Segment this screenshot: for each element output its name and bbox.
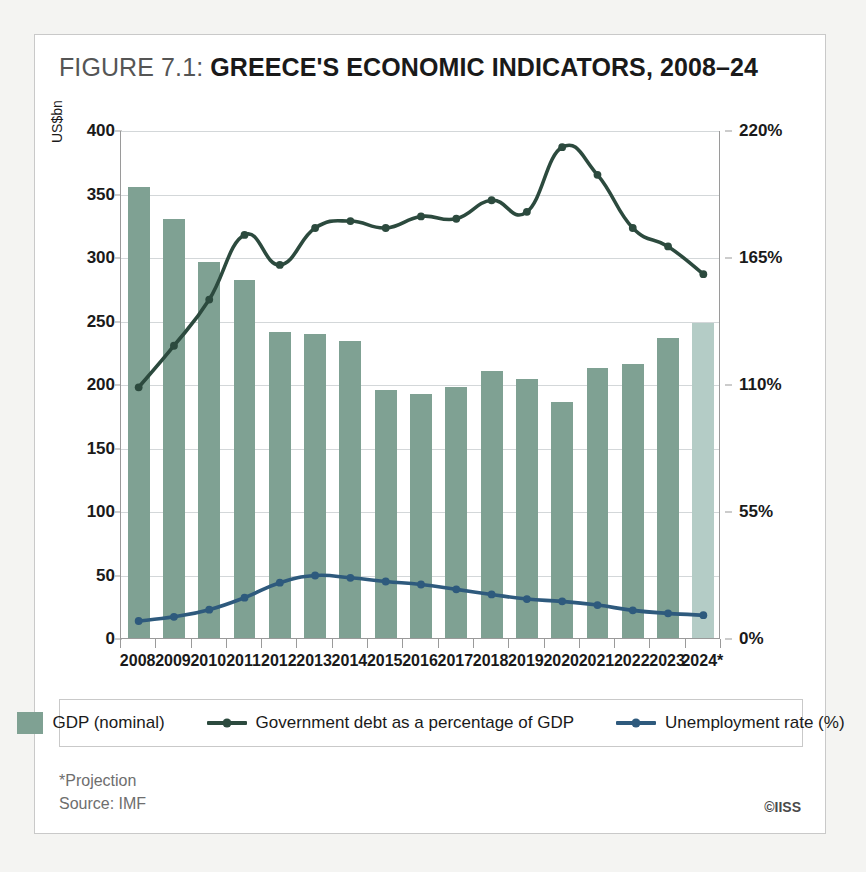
- x-axis-label-2008: 2008: [120, 652, 156, 670]
- x-axis-label-2020: 2020: [543, 652, 579, 670]
- x-axis-tickmark: [191, 639, 192, 648]
- copyright-notice: ©IISS: [764, 799, 801, 815]
- legend-item-unemployment-rate[interactable]: Unemployment rate (%): [616, 713, 845, 733]
- x-axis-label-2014: 2014: [332, 652, 368, 670]
- y-axis-left-tick-0: 0: [67, 629, 115, 649]
- data-point-2022-debt: [629, 224, 637, 232]
- y-axis-right-tickmark: [725, 131, 732, 132]
- x-axis-label-2015: 2015: [367, 652, 403, 670]
- x-axis-tickmark: [367, 639, 368, 648]
- x-axis-tickmark: [296, 639, 297, 648]
- data-point-2015-unemployment: [382, 578, 390, 586]
- x-axis-tickmark: [614, 639, 615, 648]
- y-axis-left: 050100150200250300350400: [55, 131, 115, 639]
- data-point-2009-debt: [170, 342, 178, 350]
- data-point-2018-debt: [488, 196, 496, 204]
- x-axis-label-2018: 2018: [473, 652, 509, 670]
- x-axis-tickmark: [720, 639, 721, 648]
- y-axis-right-tick-0pct: 0%: [739, 629, 764, 649]
- x-axis-tickmark: [649, 639, 650, 648]
- data-point-2022-unemployment: [629, 606, 637, 614]
- legend-line-icon: [616, 721, 656, 725]
- legend-line-icon: [207, 721, 247, 725]
- data-point-2016-debt: [417, 213, 425, 221]
- x-axis-label-2019: 2019: [508, 652, 544, 670]
- x-axis-tickmark: [544, 639, 545, 648]
- data-point-2015-debt: [382, 224, 390, 232]
- data-point-2024-unemployment: [699, 611, 707, 619]
- data-point-2012-debt: [276, 261, 284, 269]
- y-axis-right-tickmark: [725, 639, 732, 640]
- data-point-2021-debt: [594, 171, 602, 179]
- x-axis-label-2021: 2021: [579, 652, 615, 670]
- y-axis-right-tick-110pct: 110%: [739, 375, 782, 395]
- x-axis-label-2022: 2022: [614, 652, 650, 670]
- y-axis-right-tickmark: [725, 385, 732, 386]
- data-point-2016-unemployment: [417, 581, 425, 589]
- x-axis-label-2010: 2010: [190, 652, 226, 670]
- figure-label: FIGURE 7.1:: [59, 53, 203, 81]
- y-axis-left-tick-400: 400: [67, 121, 115, 141]
- projection-note: *Projection: [59, 769, 146, 792]
- y-axis-left-tick-100: 100: [67, 502, 115, 522]
- y-axis-left-tick-150: 150: [67, 439, 115, 459]
- legend-item-government-debt[interactable]: Government debt as a percentage of GDP: [207, 713, 574, 733]
- x-axis-tickmark: [226, 639, 227, 648]
- plot-inner: [121, 131, 719, 638]
- data-point-2020-unemployment: [558, 597, 566, 605]
- x-axis-tickmark: [332, 639, 333, 648]
- x-axis-tickmark: [438, 639, 439, 648]
- figure-card: FIGURE 7.1: GREECE'S ECONOMIC INDICATORS…: [34, 34, 826, 834]
- x-axis-tickmark: [579, 639, 580, 648]
- x-axis-tickmark: [508, 639, 509, 648]
- x-axis-tickmark: [120, 639, 121, 648]
- data-point-2010-unemployment: [205, 606, 213, 614]
- x-axis: 2008200920102011201220132014201520162017…: [120, 639, 720, 685]
- x-axis-tickmark: [402, 639, 403, 648]
- source-note: Source: IMF: [59, 792, 146, 815]
- plot-area: [120, 131, 720, 639]
- data-point-2021-unemployment: [594, 601, 602, 609]
- legend-label: Government debt as a percentage of GDP: [256, 713, 574, 733]
- x-axis-label-2009: 2009: [155, 652, 191, 670]
- data-point-2024-debt: [699, 270, 707, 278]
- x-axis-label-2023: 2023: [649, 652, 685, 670]
- figure-title-text: GREECE'S ECONOMIC INDICATORS, 2008–24: [210, 53, 758, 81]
- y-axis-right-tick-165pct: 165%: [739, 248, 782, 268]
- data-point-2023-debt: [664, 243, 672, 251]
- y-axis-left-tick-50: 50: [67, 566, 115, 586]
- y-axis-right: 0%55%110%165%220%: [725, 131, 815, 639]
- legend-dot-icon: [222, 719, 231, 728]
- x-axis-label-2011: 2011: [226, 652, 261, 670]
- x-axis-label-2013: 2013: [296, 652, 332, 670]
- y-axis-right-tickmark: [725, 512, 732, 513]
- data-point-2010-debt: [205, 296, 213, 304]
- data-point-2008-debt: [135, 383, 143, 391]
- y-axis-left-tick-300: 300: [67, 248, 115, 268]
- legend-label: Unemployment rate (%): [665, 713, 845, 733]
- x-axis-label-2012: 2012: [261, 652, 297, 670]
- data-point-2019-debt: [523, 208, 531, 216]
- x-axis-tickmark: [155, 639, 156, 648]
- legend-dot-icon: [632, 719, 641, 728]
- y-axis-right-tickmark: [725, 258, 732, 259]
- data-point-2011-unemployment: [241, 594, 249, 602]
- data-point-2019-unemployment: [523, 595, 531, 603]
- data-point-2014-debt: [347, 217, 355, 225]
- data-point-2018-unemployment: [488, 591, 496, 599]
- legend-label: GDP (nominal): [52, 713, 164, 733]
- chart-legend: GDP (nominal)Government debt as a percen…: [59, 699, 803, 747]
- data-point-2017-debt: [452, 215, 460, 223]
- legend-swatch-icon: [17, 712, 43, 734]
- data-point-2017-unemployment: [452, 585, 460, 593]
- line-series-layer: [121, 131, 721, 639]
- data-point-2014-unemployment: [347, 574, 355, 582]
- y-axis-left-tick-200: 200: [67, 375, 115, 395]
- data-point-2009-unemployment: [170, 613, 178, 621]
- x-axis-tickmark: [685, 639, 686, 648]
- legend-item-gdp[interactable]: GDP (nominal): [17, 712, 164, 734]
- y-axis-left-tick-350: 350: [67, 185, 115, 205]
- data-point-2013-debt: [311, 224, 319, 232]
- data-point-2013-unemployment: [311, 572, 319, 580]
- footnote: *Projection Source: IMF: [59, 769, 146, 815]
